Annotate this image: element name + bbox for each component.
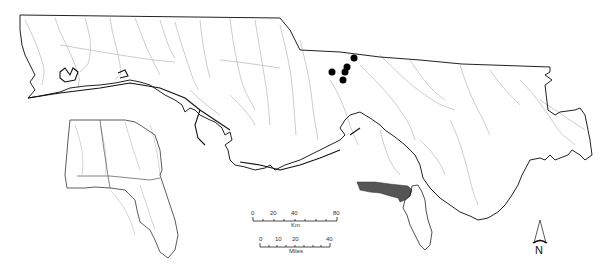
study-region-boundary (20, 15, 592, 220)
site-point (351, 55, 358, 62)
florida-locator-inset (357, 182, 432, 250)
miles-tick-40: 40 (326, 236, 333, 242)
site-point (340, 77, 347, 84)
scale-bar-km (253, 217, 337, 221)
scale-bar-miles (260, 243, 330, 247)
study-area-map (0, 0, 606, 267)
miles-tick-0: 0 (259, 236, 262, 242)
miles-tick-20: 20 (292, 236, 299, 242)
km-tick-40: 40 (291, 210, 298, 216)
site-point (329, 69, 336, 76)
miles-tick-10: 10 (275, 236, 282, 242)
river-network (25, 18, 585, 205)
north-label: N (535, 244, 543, 256)
inset-southeast-states (65, 120, 178, 258)
highlighted-study-area (357, 182, 412, 202)
site-point (342, 69, 349, 76)
km-unit-label: Km (291, 222, 300, 228)
km-tick-80: 80 (333, 210, 340, 216)
km-tick-20: 20 (270, 210, 277, 216)
km-tick-0: 0 (251, 210, 254, 216)
north-arrow-icon (533, 220, 547, 243)
miles-unit-label: Miles (289, 248, 303, 254)
site-points (329, 55, 358, 84)
